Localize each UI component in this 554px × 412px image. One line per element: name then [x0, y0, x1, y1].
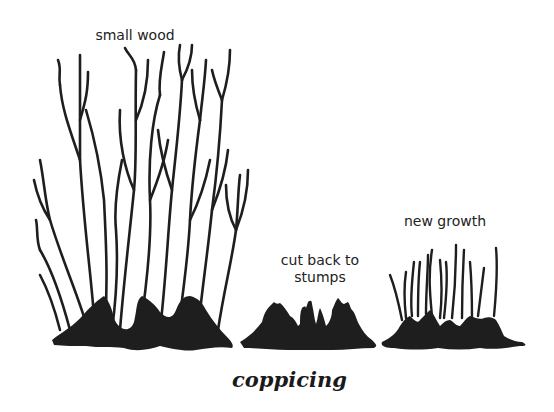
label-small-wood: small wood	[80, 27, 190, 44]
label-cut-back-line1: cut back to	[260, 252, 380, 269]
stumps-silhouette	[240, 298, 376, 350]
new-growth-base	[382, 310, 526, 350]
new-growth-shoots	[390, 245, 497, 320]
label-cut-back-line2: stumps	[260, 269, 380, 286]
small-wood-trees	[34, 45, 248, 330]
label-cut-back: cut back to stumps	[260, 252, 380, 286]
diagram-caption: coppicing	[232, 367, 347, 392]
coppicing-illustration	[0, 0, 554, 412]
label-new-growth: new growth	[390, 213, 500, 230]
